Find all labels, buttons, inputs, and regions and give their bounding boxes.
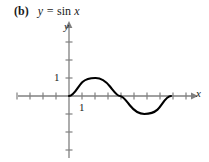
x-axis-label: x (196, 88, 201, 99)
x-axis-tick-label-1: 1 (79, 102, 85, 113)
y-axis-label: y (64, 21, 69, 32)
sine-plot-canvas (0, 0, 209, 162)
sine-graph-figure: (b)y = sin x (0, 0, 209, 162)
y-axis-tick-label-1: 1 (54, 72, 60, 83)
